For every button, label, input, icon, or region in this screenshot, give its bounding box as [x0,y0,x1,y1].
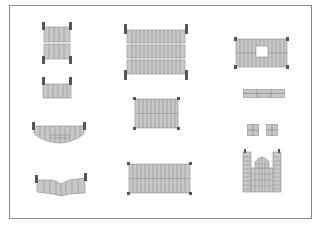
curved-panel-wave [35,173,87,197]
diagram-canvas [0,0,319,226]
double-row-panel-wide [127,162,192,195]
gate-with-arch [242,148,282,192]
thin-strip-panel [243,89,285,98]
triple-panel-large [124,24,188,80]
single-panel-small [41,77,73,99]
double-panel-vertical [41,22,73,64]
curved-panel-shallow [32,121,86,145]
double-row-panel-medium [133,97,180,130]
panel-with-opening [234,37,289,69]
small-square-tiles [247,124,279,136]
